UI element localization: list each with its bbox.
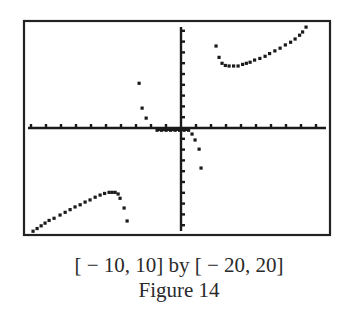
data-point <box>199 166 202 169</box>
x-tick <box>150 124 152 128</box>
x-tick <box>120 124 122 128</box>
data-point <box>245 62 248 65</box>
data-point <box>48 219 51 222</box>
data-point <box>43 222 46 225</box>
x-tick <box>45 124 47 128</box>
y-tick <box>181 73 185 75</box>
x-tick <box>195 124 197 128</box>
data-point <box>111 191 114 194</box>
data-point <box>232 64 235 67</box>
x-tick <box>240 124 242 128</box>
data-point <box>58 213 61 216</box>
data-point <box>224 64 227 67</box>
x-tick <box>315 124 317 128</box>
y-tick <box>181 84 185 86</box>
data-point <box>138 82 141 85</box>
data-point <box>114 191 117 194</box>
figure-label: Figure 14 <box>6 279 346 301</box>
data-point <box>69 208 72 211</box>
data-point <box>123 206 126 209</box>
y-tick <box>181 213 185 215</box>
x-tick <box>225 124 227 128</box>
y-tick <box>181 138 185 140</box>
x-tick <box>135 124 137 128</box>
data-point <box>36 227 39 230</box>
near-axis-segment <box>157 127 189 131</box>
y-tick <box>181 62 185 64</box>
x-tick <box>285 124 287 128</box>
x-tick <box>255 124 257 128</box>
data-point <box>103 192 106 195</box>
y-tick <box>181 170 185 172</box>
data-point <box>264 55 267 58</box>
data-point <box>73 205 76 208</box>
data-point <box>198 148 201 151</box>
data-point <box>273 49 276 52</box>
x-tick <box>105 124 107 128</box>
data-point <box>294 37 297 40</box>
data-point <box>237 64 240 67</box>
data-point <box>220 62 223 65</box>
window-caption: [ − 10, 10] by [ − 20, 20] <box>6 254 346 276</box>
data-point <box>141 107 144 110</box>
data-point <box>289 41 292 44</box>
x-tick <box>90 124 92 128</box>
y-tick <box>181 30 185 32</box>
data-point <box>31 230 34 233</box>
y-tick <box>181 116 185 118</box>
data-point <box>284 43 287 46</box>
x-tick <box>270 124 272 128</box>
data-point <box>228 64 231 67</box>
data-point <box>190 132 193 135</box>
data-point <box>88 198 91 201</box>
data-point <box>94 196 97 199</box>
y-tick <box>181 51 185 53</box>
data-point <box>79 203 82 206</box>
x-tick <box>60 124 62 128</box>
data-point <box>64 211 67 214</box>
data-point <box>52 217 55 220</box>
y-tick <box>181 94 185 96</box>
x-tick <box>75 124 77 128</box>
y-tick <box>181 148 185 150</box>
data-point <box>117 192 120 195</box>
data-point <box>298 34 301 37</box>
data-point <box>279 47 282 50</box>
x-tick <box>30 124 32 128</box>
data-point <box>193 138 196 141</box>
data-point <box>217 56 220 59</box>
x-tick <box>210 124 212 128</box>
data-point <box>214 44 217 47</box>
data-point <box>145 117 148 120</box>
y-tick <box>181 224 185 226</box>
y-tick <box>181 159 185 161</box>
calculator-graph-screen <box>0 0 346 245</box>
y-tick <box>181 181 185 183</box>
data-point <box>253 58 256 61</box>
data-point <box>249 61 252 64</box>
data-point <box>241 63 244 66</box>
y-tick <box>181 202 185 204</box>
data-point <box>99 193 102 196</box>
x-tick <box>300 124 302 128</box>
data-point <box>84 200 87 203</box>
data-point <box>304 26 307 29</box>
y-tick <box>181 192 185 194</box>
data-point <box>301 30 304 33</box>
data-point <box>108 191 111 194</box>
data-point <box>268 52 271 55</box>
data-point <box>40 224 43 227</box>
data-point <box>126 219 129 222</box>
y-tick <box>181 40 185 42</box>
y-tick <box>181 105 185 107</box>
data-point <box>118 197 121 200</box>
data-point <box>258 57 261 60</box>
